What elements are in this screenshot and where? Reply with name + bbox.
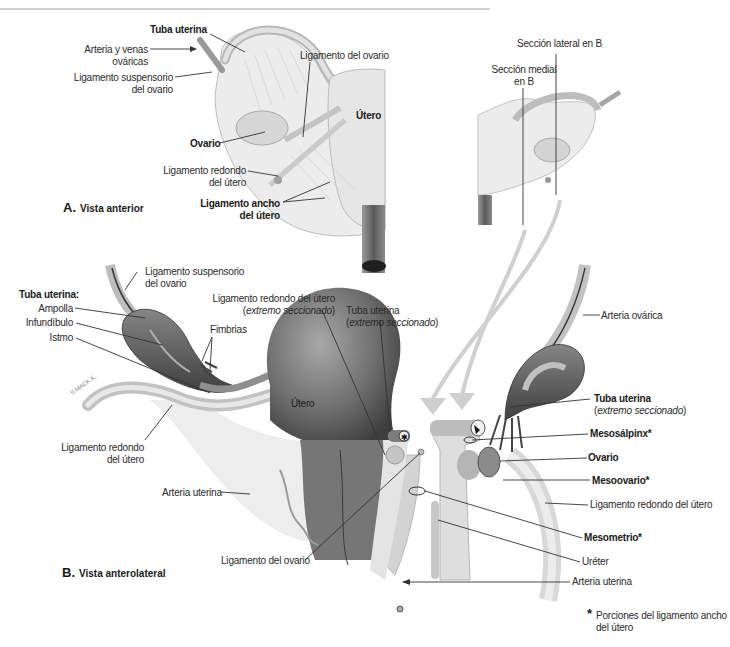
label-b-fimbrias: Fimbrias	[210, 324, 247, 336]
label-b-arteria-uterina-right: Arteria uterina	[572, 576, 632, 588]
label-b-tuba-right-1: Tuba uterina	[594, 393, 651, 405]
label-seccion-medial-2: en B	[486, 76, 562, 88]
label-b-ureter: Uréter	[582, 556, 609, 568]
panel-b-title: B.Vista anterolateral	[62, 565, 166, 580]
label-b-lig-ovario: Ligamento del ovario	[221, 555, 310, 567]
label-a-lig-ancho-2: del útero	[180, 210, 280, 222]
label-b-ampolla: Ampolla	[20, 303, 73, 315]
label-a-utero: Útero	[356, 110, 381, 122]
label-b-lig-redondo-right: Ligamento redondo del útero	[590, 499, 712, 511]
label-a-arteria-venas-1: Arteria y venas	[80, 44, 148, 56]
label-b-lig-redondo-2: del útero	[60, 454, 144, 466]
footnote-line-2: del útero	[596, 622, 633, 634]
arrow-head-lateral	[449, 393, 475, 410]
label-a-lig-redondo-2: del útero	[140, 177, 246, 189]
svg-text:✱: ✱	[401, 433, 408, 442]
label-a-ovario: Ovario	[190, 138, 220, 150]
label-a-tuba-uterina: Tuba uterina	[150, 24, 207, 36]
figure-canvas: ✱	[0, 0, 730, 647]
label-b-mesosalpinx: Mesosálpinx*	[590, 428, 652, 440]
label-b-mesoovario: Mesoovario*	[592, 475, 649, 487]
label-b-utero: Útero	[291, 398, 314, 410]
label-seccion-medial-1: Sección medial	[486, 64, 562, 76]
label-b-mesometrio: Mesometrio*	[584, 532, 642, 544]
label-b-lig-redondo-1: Ligamento redondo	[60, 442, 144, 454]
panel-a-illustration	[200, 30, 386, 273]
panel-a-section-view	[478, 92, 620, 225]
panel-b-illustration: ✱	[88, 265, 585, 612]
label-b-arteria-ovarica: Arteria ovárica	[601, 310, 662, 322]
label-b-lig-suspensorio-1: Ligamento suspensorio	[145, 266, 244, 278]
panel-b-title-text: Vista anterolateral	[79, 568, 166, 579]
label-a-lig-suspensorio-2: del ovario	[50, 84, 173, 96]
label-a-lig-ovario: Ligamento del ovario	[300, 50, 389, 62]
label-seccion-lateral: Sección lateral en B	[517, 38, 602, 50]
label-b-infundibulo: Infundíbulo	[20, 317, 73, 329]
label-b-istmo: Istmo	[20, 332, 73, 344]
panel-a-letter: A.	[63, 200, 76, 215]
footnote-line-1: Porciones del ligamento ancho	[596, 610, 727, 622]
label-b-tuba-cut-1: Tuba uterina	[346, 305, 399, 317]
arrow-head-medial	[420, 398, 446, 415]
label-b-lig-suspensorio-2: del ovario	[145, 278, 186, 290]
label-a-lig-ancho-1: Ligamento ancho	[180, 198, 280, 210]
panel-a-title: A.Vista anterior	[63, 200, 144, 215]
label-a-lig-suspensorio-1: Ligamento suspensorio	[50, 72, 173, 84]
label-b-arteria-uterina-left: Arteria uterina	[162, 487, 222, 499]
panel-b-letter: B.	[62, 565, 75, 580]
panel-a-title-text: Vista anterior	[80, 203, 144, 214]
label-b-ovario: Ovario	[588, 452, 618, 464]
label-b-lig-redondo-cut-1: Ligamento redondo del útero	[210, 293, 335, 305]
label-b-lig-redondo-cut-2: (extremo seccionado)	[210, 305, 335, 317]
label-b-tuba-cut-2: (extremo seccionado)	[346, 317, 438, 329]
label-b-tuba-right-2: (extremo seccionado)	[594, 405, 686, 417]
footnote-asterisk: *	[587, 608, 592, 620]
label-a-arteria-venas-2: ováricas	[80, 56, 148, 68]
label-a-lig-redondo-1: Ligamento redondo	[140, 165, 246, 177]
label-b-tuba-uterina-header: Tuba uterina:	[19, 289, 79, 301]
